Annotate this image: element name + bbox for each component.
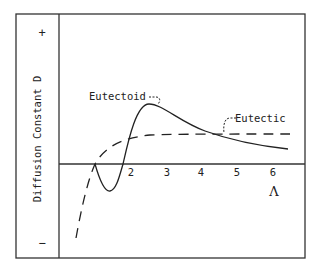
- plus-sign: +: [38, 26, 45, 40]
- x-tick-2: 2: [128, 166, 134, 178]
- diffusion-diagram: Diffusion Constant D + − 2 3 4 5 6 Λ Eut…: [0, 0, 319, 273]
- x-tick-4: 4: [198, 166, 204, 178]
- x-tick-3: 3: [164, 166, 170, 178]
- eutectoid-leader: [149, 97, 160, 104]
- x-tick-5: 5: [234, 166, 240, 178]
- eutectic-label: Eutectic: [235, 112, 286, 124]
- y-axis-label: Diffusion Constant D: [31, 76, 43, 202]
- x-tick-6: 6: [270, 166, 276, 178]
- eutectic-curve: [76, 134, 290, 238]
- minus-sign: −: [38, 236, 45, 250]
- x-axis-label: Λ: [268, 184, 279, 199]
- eutectoid-label: Eutectoid: [89, 90, 146, 102]
